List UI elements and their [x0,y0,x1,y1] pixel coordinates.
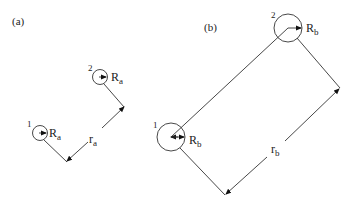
panel-a-sphere-2: 2 Ra [88,63,123,86]
panel-a-sphere-1: 1 Ra [27,119,61,142]
extension-line [180,148,225,195]
separation-label: rb [271,142,280,158]
dimension-arrow-icon [226,157,267,194]
panel-a: (a) 1 Ra 2 Ra ra [12,15,124,162]
sphere-index: 2 [271,10,276,20]
sphere-index: 1 [153,120,158,130]
extension-line [104,84,124,107]
panel-b-sphere-1: 1 Rb [153,120,202,151]
sphere-index: 1 [27,119,32,129]
separation-label: ra [89,132,97,148]
radius-label: Ra [111,70,123,86]
radius-label: Ra [49,126,61,142]
panel-b: (b) 1 Rb 2 Rb rb [153,10,340,195]
dimension-arrow-icon [285,89,339,141]
extension-line [297,38,340,88]
two-sphere-diagram: (a) 1 Ra 2 Ra ra (b) 1 [0,0,358,206]
dimension-arrow-icon [102,107,124,128]
panel-b-label: (b) [204,21,217,34]
extension-line [44,140,67,162]
sphere-index: 2 [88,63,93,73]
radius-label: Rb [189,133,202,149]
dimension-arrow-icon [67,142,88,161]
panel-a-label: (a) [12,15,25,28]
radius-label: Rb [306,21,319,37]
center-line [171,28,288,137]
